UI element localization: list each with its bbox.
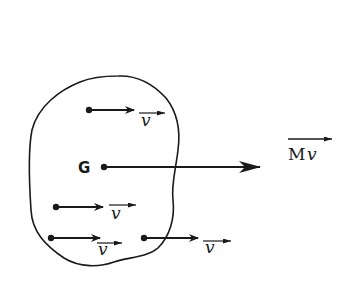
velocity-label: v — [205, 237, 215, 257]
velocity-symbol: v — [307, 144, 317, 164]
diagram-canvas: G M v v v v — [0, 0, 352, 285]
velocity-vector: v — [53, 203, 136, 223]
momentum-label: M v — [288, 139, 332, 164]
velocity-vector: v — [141, 235, 231, 257]
velocity-vector: v — [86, 107, 165, 130]
velocity-label: v — [141, 110, 151, 130]
velocity-label: v — [98, 239, 108, 259]
mass-symbol: M — [288, 144, 305, 164]
velocity-label: v — [111, 203, 121, 223]
center-of-mass-label: G — [78, 159, 90, 177]
